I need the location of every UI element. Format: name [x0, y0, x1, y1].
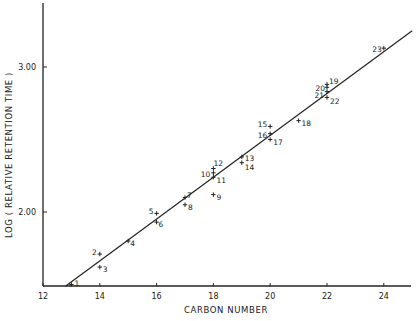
- axes: 121416182022242.003.00: [18, 3, 411, 301]
- x-tick-label: 24: [379, 292, 389, 301]
- fit-line: [66, 31, 412, 286]
- y-axis-label: LOG ( RELATIVE RETENTION TIME ): [4, 72, 14, 238]
- data-point: 8: [183, 203, 193, 212]
- y-tick-label: 2.00: [18, 208, 36, 217]
- point-label: 10: [201, 170, 211, 179]
- point-label: 1: [74, 279, 79, 288]
- data-point: 15: [258, 120, 273, 129]
- point-label: 19: [329, 77, 339, 86]
- x-tick-label: 20: [265, 292, 275, 301]
- data-point: 2: [92, 248, 102, 257]
- scatter-chart: 121416182022242.003.00 12345678910111213…: [0, 0, 418, 321]
- point-label: 3: [103, 265, 108, 274]
- point-label: 11: [216, 176, 226, 185]
- point-label: 8: [188, 203, 193, 212]
- regression-line: [66, 31, 412, 286]
- point-label: 18: [302, 119, 312, 128]
- point-label: 2: [92, 248, 97, 257]
- x-tick-label: 12: [38, 292, 48, 301]
- x-tick-label: 22: [322, 292, 332, 301]
- data-point: 22: [325, 95, 340, 106]
- x-tick-label: 16: [152, 292, 162, 301]
- x-tick-label: 18: [208, 292, 218, 301]
- point-label: 16: [258, 131, 268, 140]
- point-label: 6: [159, 220, 164, 229]
- data-point: 6: [154, 220, 163, 229]
- point-label: 21: [314, 91, 324, 100]
- point-label: 5: [149, 207, 154, 216]
- data-point: 11: [211, 175, 226, 185]
- data-point: 5: [149, 207, 159, 216]
- point-label: 7: [187, 191, 192, 200]
- point-label: 17: [273, 138, 283, 147]
- data-point: 18: [296, 118, 311, 127]
- x-tick-label: 14: [95, 292, 105, 301]
- point-label: 12: [213, 159, 223, 168]
- point-label: 15: [258, 120, 268, 129]
- point-label: 14: [245, 163, 255, 172]
- point-label: 9: [216, 193, 221, 202]
- data-point: 12: [211, 159, 223, 171]
- data-point: 17: [268, 137, 283, 146]
- x-axis-label: CARBON NUMBER: [184, 305, 268, 315]
- data-point: 14: [240, 161, 255, 172]
- data-point: 23: [372, 45, 386, 54]
- point-label: 13: [245, 154, 255, 163]
- data-point: 3: [98, 265, 108, 274]
- data-point: 9: [211, 192, 221, 201]
- point-label: 22: [330, 97, 340, 106]
- point-label: 4: [130, 239, 135, 248]
- y-tick-label: 3.00: [18, 63, 36, 72]
- point-label: 23: [372, 45, 382, 54]
